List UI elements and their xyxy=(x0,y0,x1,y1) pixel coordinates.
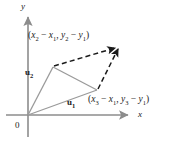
y-axis-label: y xyxy=(21,2,25,11)
paren-close: ) xyxy=(86,30,89,40)
paren-close: ) xyxy=(146,94,149,104)
point-label-top: (x2 − x1, y2 − y1) xyxy=(28,31,89,42)
vector-u2-label: u2 xyxy=(25,68,33,79)
dashed-edge-from-u2 xyxy=(54,48,115,66)
point-label-right: (x3 − x1, y3 − y1) xyxy=(88,95,149,106)
vector-u2-label-sub: 2 xyxy=(30,72,33,79)
minus-2: − xyxy=(68,30,78,40)
minus-1: − xyxy=(39,30,49,40)
dashed-edge-from-u1 xyxy=(98,49,118,89)
minus-1: − xyxy=(99,94,109,104)
origin-label: 0 xyxy=(15,121,20,130)
vector-u1-label: u1 xyxy=(67,98,75,109)
vector-parallelogram-figure: y x 0 u2 u1 (x2 − x1, y2 − y1) (x3 − x1,… xyxy=(0,0,187,144)
minus-2: − xyxy=(128,94,138,104)
x-axis-label: x xyxy=(138,110,142,119)
connecting-segment xyxy=(53,67,97,90)
vector-u1-label-sub: 1 xyxy=(72,102,75,109)
